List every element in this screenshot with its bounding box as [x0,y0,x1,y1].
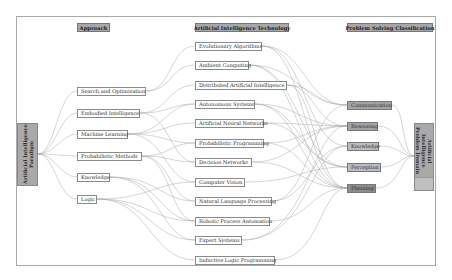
paradigm-box: Artificial Intelligence Paradigm [17,123,38,186]
paradigm-label: Artificial Intelligence Paradigm [22,124,34,185]
tech-probabilistic-programming: Probabilistic Programming [195,139,264,148]
tech-computer-vision: Computer Vision [195,178,245,187]
domain-label: Artificial Intelligence Problem Domain [415,124,433,178]
approach-logic: Logic [77,195,97,204]
tech-evolutionary-algorithms: Evolutionary Algorithms [195,42,262,51]
approach-search-optimisation: Search and Optimisation [77,87,146,96]
class-knowledge: Knowledge [347,142,379,151]
tech-distributed-ai: Distributed Artificial Intelligence [195,81,287,90]
approach-embodied-intelligence: Embodied Intelligence [77,109,140,118]
tech-autonomous-systems: Autonomous Systems [195,100,255,109]
header-technology: Artificial Intelligence Technology [195,23,289,32]
tech-natural-language-processing: Natural Language Processing [195,197,272,206]
tech-decision-networks: Decision Networks [195,158,252,167]
header-classification: Problem Solving Classification [347,23,433,32]
tech-inductive-logic-programming: Inductive Logic Programming [195,256,275,265]
class-reasoning: Reasoning [347,122,378,131]
class-planning: Planning [347,184,376,193]
approach-knowledge: Knowledge [77,173,110,182]
class-communication: Communication [347,101,392,110]
tech-robotic-process-automation: Robotic Process Automation [195,217,270,226]
tech-artificial-neural-networks: Artificial Neural Networks [195,119,264,128]
approach-machine-learning: Machine Learning [77,130,128,139]
domain-box-tail [415,177,433,190]
tech-ambient-computing: Ambient Computing [195,61,249,70]
header-approach: Approach [77,23,110,32]
approach-probabilistic-methods: Probabilistic Methods [77,152,142,161]
class-perception: Perception [347,163,381,172]
tech-expert-systems: Expert Systems [195,236,242,245]
domain-box: Artificial Intelligence Problem Domain [414,123,434,191]
